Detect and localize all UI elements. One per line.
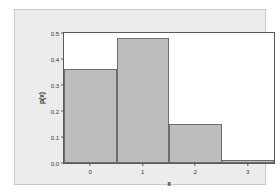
x-tick-label: 0	[89, 168, 92, 175]
y-tick-label: 0.0	[51, 160, 61, 167]
y-tick: 0.0	[51, 160, 64, 167]
figure-container: 0.00.10.20.30.40.5 0123 p(x) x	[0, 0, 280, 194]
x-tick-mark	[142, 163, 143, 166]
x-tick-label: 3	[246, 168, 249, 175]
bar	[222, 160, 275, 163]
plot-inner: 0.00.10.20.30.40.5 0123	[64, 33, 274, 163]
y-tick: 0.3	[51, 82, 64, 89]
bar-series	[64, 33, 274, 163]
y-tick: 0.4	[51, 56, 64, 63]
x-tick-mark	[247, 163, 248, 166]
y-tick-label: 0.3	[51, 82, 61, 89]
x-tick-label: 2	[194, 168, 197, 175]
bar	[169, 124, 222, 163]
bar	[64, 69, 117, 163]
bar	[117, 38, 170, 163]
y-tick: 0.1	[51, 134, 64, 141]
y-tick: 0.2	[51, 108, 64, 115]
y-tick-label: 0.4	[51, 56, 61, 63]
y-tick: 0.5	[51, 30, 64, 37]
x-tick: 0	[89, 163, 92, 175]
plot-area: 0.00.10.20.30.40.5 0123	[63, 32, 275, 164]
y-tick-label: 0.5	[51, 30, 61, 37]
x-tick-label: 1	[141, 168, 144, 175]
x-tick: 3	[246, 163, 249, 175]
x-tick: 1	[141, 163, 144, 175]
y-axis-label: p(x)	[38, 92, 45, 104]
x-tick-mark	[90, 163, 91, 166]
x-axis-label: x	[63, 180, 275, 187]
y-tick-label: 0.2	[51, 108, 61, 115]
x-tick: 2	[194, 163, 197, 175]
chart-canvas: 0.00.10.20.30.40.5 0123 p(x) x	[14, 9, 266, 185]
x-tick-mark	[195, 163, 196, 166]
y-tick-label: 0.1	[51, 134, 61, 141]
